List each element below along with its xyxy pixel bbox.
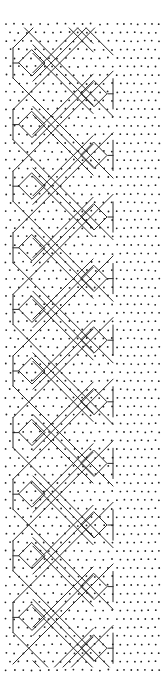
pin-dot (120, 303, 122, 305)
pin-dot (44, 626, 46, 628)
pin-dot (52, 592, 54, 594)
pin-dot (22, 244, 24, 246)
pin-dot (86, 168, 88, 170)
pin-dot (134, 610, 136, 612)
pin-dot (86, 337, 88, 339)
left-diamond (19, 50, 45, 76)
pin-dot (123, 23, 125, 25)
pin-dot (130, 380, 132, 382)
left-diamond (19, 296, 45, 322)
pin-dot (131, 312, 133, 314)
pin-dot (85, 99, 87, 101)
pin-dot (48, 482, 50, 484)
pin-dot (120, 508, 122, 510)
pin-dot (126, 133, 128, 135)
pin-dot (73, 23, 75, 25)
pin-dot (144, 363, 146, 365)
pin-dot (47, 567, 49, 569)
pin-dot (126, 474, 128, 476)
pin-dot (158, 516, 160, 518)
pin-dot (123, 176, 125, 178)
diagonal-up (13, 564, 113, 664)
pin-dot (145, 278, 147, 280)
pin-dot (18, 559, 20, 561)
pin-dot (147, 253, 149, 255)
pin-dot (17, 235, 19, 237)
pin-dot (47, 159, 49, 161)
pin-dot (134, 269, 136, 271)
pin-dot (127, 440, 129, 442)
pin-dot (103, 218, 105, 220)
pin-dot (57, 125, 59, 127)
pin-dot (17, 32, 19, 34)
pin-dot (116, 601, 118, 603)
pin-dot (151, 40, 153, 42)
pin-dot (48, 635, 50, 637)
pin-dot (13, 619, 15, 621)
pin-dot (116, 312, 118, 314)
pin-dot (74, 295, 76, 297)
pin-dot (99, 618, 101, 620)
pin-dot (43, 202, 45, 204)
pin-dot (35, 406, 37, 408)
pin-dot (116, 40, 118, 42)
pin-dot (107, 380, 109, 382)
pin-dot (130, 176, 132, 178)
pin-dot (107, 244, 109, 246)
pin-dot (51, 66, 53, 68)
pin-dot (43, 48, 45, 50)
pin-dot (34, 99, 36, 101)
pin-dot (65, 636, 67, 638)
pin-dot (144, 482, 146, 484)
pin-dot (34, 286, 36, 288)
pin-dot (60, 321, 62, 323)
pin-dot (60, 31, 62, 33)
pin-dot (77, 253, 79, 255)
pin-dot (52, 201, 54, 203)
pin-dot (120, 219, 122, 221)
pin-dot (6, 635, 8, 637)
pin-dot (56, 601, 58, 603)
pin-dot (30, 295, 32, 297)
pin-dot (108, 551, 110, 553)
pin-dot (5, 244, 7, 246)
pin-dot (116, 295, 118, 297)
pin-dot (48, 227, 50, 229)
pin-dot (95, 270, 97, 272)
pin-dot (14, 414, 16, 416)
pin-dot (9, 558, 11, 560)
pin-dot (130, 57, 132, 59)
pin-dot (86, 508, 88, 510)
pin-dot (90, 142, 92, 144)
pin-dot (134, 593, 136, 595)
pin-dot (5, 380, 7, 382)
grid-line (33, 144, 93, 204)
pin-dot (130, 516, 132, 518)
pin-dot (137, 125, 139, 127)
pin-dot (111, 524, 113, 526)
pin-dot (137, 159, 139, 161)
pin-dot (14, 177, 16, 179)
pin-dot (94, 355, 96, 357)
pin-dot (137, 482, 139, 484)
pin-dot (40, 584, 42, 586)
pin-dot (155, 644, 157, 646)
pin-dot (144, 193, 146, 195)
pin-dot (112, 593, 114, 595)
pin-dot (130, 91, 132, 93)
pin-dot (137, 176, 139, 178)
pin-dot (5, 516, 7, 518)
pin-dot (98, 380, 100, 382)
pin-dot (158, 584, 160, 586)
pin-dot (107, 449, 109, 451)
pin-dot (144, 432, 146, 434)
pin-dot (69, 151, 71, 153)
pin-dot (78, 576, 80, 578)
pin-dot (102, 439, 104, 441)
pin-dot (90, 160, 92, 162)
pin-dot (123, 346, 125, 348)
pin-dot (5, 57, 7, 59)
pin-dot (26, 372, 28, 374)
pin-dot (18, 474, 20, 476)
pin-dot (123, 465, 125, 467)
